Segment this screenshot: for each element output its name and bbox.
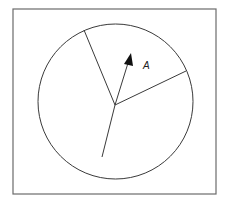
frame-border bbox=[13, 9, 216, 194]
right-radius bbox=[115, 71, 186, 105]
upper-left-radius bbox=[84, 30, 115, 105]
circle bbox=[38, 24, 193, 179]
diagram-canvas: A bbox=[0, 0, 228, 205]
arrowhead-icon bbox=[124, 53, 133, 66]
vector-a-shaft bbox=[115, 63, 128, 105]
lower-line bbox=[102, 105, 115, 157]
vector-label-a: A bbox=[142, 60, 150, 71]
